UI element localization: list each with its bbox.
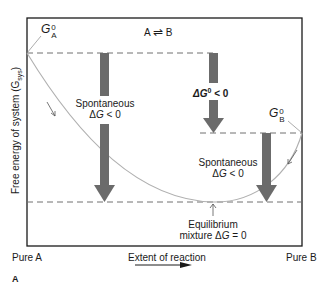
ga0-leader <box>27 36 41 53</box>
equilibrium-label: Equilibrium mixture ΔG = 0 <box>173 219 253 241</box>
reactant-a: A <box>144 27 150 38</box>
mixture-delta: mixture Δ <box>180 230 222 241</box>
g-var: G <box>96 109 104 120</box>
y-axis-sub: sys <box>16 70 23 81</box>
g-var: G <box>222 230 230 241</box>
gb0-sub: B <box>279 116 284 124</box>
curve-direction-arrow-left <box>47 102 55 116</box>
delta-g0-prefix: ΔG <box>193 88 208 99</box>
spontaneous-arrow-left <box>94 53 115 202</box>
ga0-symbol: G <box>41 22 50 36</box>
spontaneous-right-line1: Spontaneous <box>197 157 259 168</box>
ga0-label: G0A <box>41 24 57 40</box>
spontaneous-right-label: Spontaneous ΔG < 0 <box>197 157 259 179</box>
pure-a-label: Pure A <box>12 252 42 263</box>
inequality: < 0 <box>104 109 121 120</box>
equilibrium-line2: mixture ΔG = 0 <box>173 230 253 241</box>
y-axis-close: ) <box>10 67 21 70</box>
equilibrium-pointer-arrow <box>210 204 216 216</box>
pure-b-label: Pure B <box>286 252 317 263</box>
gb0-symbol: G <box>269 106 278 120</box>
ga0-sub: A <box>51 32 56 40</box>
spontaneous-left-line2: ΔG < 0 <box>74 109 136 120</box>
delta-symbol: Δ <box>89 109 96 120</box>
reaction-equation: A ⇌ B <box>144 27 172 38</box>
free-energy-curve <box>27 53 302 202</box>
equals-zero: = 0 <box>230 230 247 241</box>
delta-g0-label: ΔG0 < 0 <box>193 85 228 99</box>
equilibrium-line1: Equilibrium <box>173 219 253 230</box>
spontaneous-left-label: Spontaneous ΔG < 0 <box>74 98 136 120</box>
spontaneous-left-line1: Spontaneous <box>74 98 136 109</box>
y-axis-label: Free energy of system (Gsys) <box>10 56 25 206</box>
gb0-leader <box>288 121 302 133</box>
panel-label: A <box>12 274 19 285</box>
gb0-label: G0B <box>269 108 285 124</box>
g-var: G <box>219 168 227 179</box>
delta-g0-suffix: < 0 <box>211 88 228 99</box>
product-b: B <box>166 27 173 38</box>
free-energy-diagram <box>0 0 323 288</box>
x-axis-label: Extent of reaction <box>128 252 206 263</box>
plot-frame <box>27 18 302 246</box>
delta-symbol: Δ <box>212 168 219 179</box>
inequality: < 0 <box>227 168 244 179</box>
spontaneous-right-line2: ΔG < 0 <box>197 168 259 179</box>
spontaneous-arrow-right <box>256 133 277 202</box>
y-axis-text: Free energy of system (G <box>10 81 21 194</box>
equilibrium-arrows-icon: ⇌ <box>153 25 163 39</box>
curve-direction-arrow-right <box>288 150 297 164</box>
